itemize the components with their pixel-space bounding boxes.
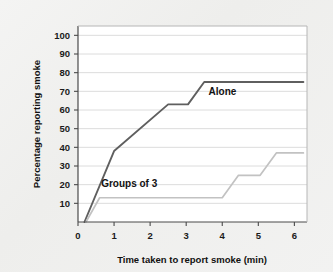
chart-figure: 102030405060708090100 0123456 Time taken… xyxy=(0,0,333,272)
y-tick-label-80: 80 xyxy=(59,67,70,78)
x-tick-label-1: 1 xyxy=(111,230,117,241)
y-tick-label-40: 40 xyxy=(59,142,70,153)
y-tick-label-10: 10 xyxy=(59,198,70,209)
x-tick-label-0: 0 xyxy=(75,230,80,241)
y-tick-label-50: 50 xyxy=(59,123,70,134)
line-chart-svg: 102030405060708090100 0123456 Time taken… xyxy=(0,0,333,272)
y-tick-label-60: 60 xyxy=(59,104,70,115)
series-label-alone: Alone xyxy=(209,86,237,97)
plot-area-background xyxy=(78,26,307,222)
y-axis-ticks: 102030405060708090100 xyxy=(54,30,78,209)
y-axis-title: Percentage reporting smoke xyxy=(31,60,42,188)
x-tick-label-2: 2 xyxy=(147,230,152,241)
y-tick-label-90: 90 xyxy=(59,48,70,59)
series-label-groups-of-3: Groups of 3 xyxy=(101,178,158,189)
x-tick-label-6: 6 xyxy=(292,230,297,241)
y-tick-label-100: 100 xyxy=(54,30,70,41)
x-axis-ticks: 0123456 xyxy=(75,222,297,241)
y-tick-label-20: 20 xyxy=(59,179,70,190)
y-tick-label-30: 30 xyxy=(59,160,70,171)
chart-canvas: 102030405060708090100 0123456 Time taken… xyxy=(0,0,333,272)
x-tick-label-3: 3 xyxy=(184,230,189,241)
y-tick-label-70: 70 xyxy=(59,86,70,97)
x-tick-label-4: 4 xyxy=(220,230,226,241)
x-tick-label-5: 5 xyxy=(256,230,262,241)
x-axis-title: Time taken to report smoke (min) xyxy=(117,254,267,265)
